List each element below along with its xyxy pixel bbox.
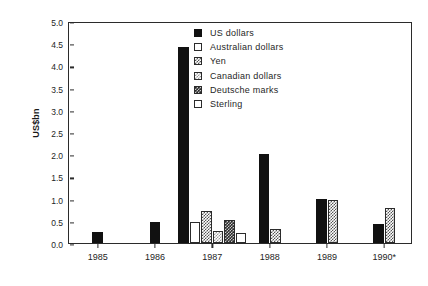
- legend-swatch-icon: [194, 29, 202, 37]
- legend-swatch-icon: [194, 100, 202, 108]
- bar: [201, 211, 212, 243]
- y-axis-tick: 0.0: [51, 240, 69, 250]
- y-axis-tick: 3.5: [51, 85, 69, 95]
- bar-chart: US$bn 0.00.51.01.52.02.53.03.54.04.55.01…: [0, 0, 428, 286]
- legend-item-label: Canadian dollars: [210, 71, 282, 81]
- bar: [178, 47, 189, 243]
- y-axis-tick: 2.5: [51, 129, 69, 139]
- y-axis-tick: 4.0: [51, 62, 69, 72]
- y-axis-tick: 5.0: [51, 18, 69, 28]
- legend-swatch-icon: [194, 57, 202, 65]
- legend-item[interactable]: Sterling: [194, 97, 344, 111]
- bar: [259, 154, 270, 243]
- x-axis-tick: 1988: [260, 243, 280, 262]
- bar: [270, 229, 281, 243]
- bar: [328, 200, 339, 243]
- legend-item-label: US dollars: [210, 28, 254, 38]
- x-axis-tick: 1986: [145, 243, 165, 262]
- x-axis-tick: 1989: [317, 243, 337, 262]
- y-axis-tick: 1.0: [51, 196, 69, 206]
- legend-item-label: Yen: [210, 56, 226, 66]
- bar: [385, 208, 396, 243]
- legend-item-label: Sterling: [210, 99, 243, 109]
- y-axis-tick: 4.5: [51, 40, 69, 50]
- y-axis-tick: 1.5: [51, 173, 69, 183]
- bar: [236, 233, 247, 243]
- legend-item[interactable]: Canadian dollars: [194, 69, 344, 83]
- legend-item-label: Deutsche marks: [210, 85, 279, 95]
- legend-item-label: Australian dollars: [210, 42, 284, 52]
- y-axis-tick: 3.0: [51, 107, 69, 117]
- x-axis-tick: 1985: [88, 243, 108, 262]
- y-axis-tick: 2.0: [51, 151, 69, 161]
- y-axis-tick: 0.5: [51, 218, 69, 228]
- bar: [150, 222, 161, 243]
- legend-swatch-icon: [194, 72, 202, 80]
- bar: [213, 231, 224, 243]
- legend-item[interactable]: Deutsche marks: [194, 83, 344, 97]
- legend-item[interactable]: Yen: [194, 54, 344, 68]
- legend-swatch-icon: [194, 43, 202, 51]
- bar: [190, 222, 201, 243]
- bar: [373, 224, 384, 243]
- x-axis-tick: 1990*: [373, 243, 397, 262]
- bar: [224, 220, 235, 243]
- y-axis-label: US$bn: [31, 83, 41, 163]
- bar: [316, 199, 327, 243]
- legend-item[interactable]: Australian dollars: [194, 40, 344, 54]
- legend-item[interactable]: US dollars: [194, 26, 344, 40]
- x-axis-tick: 1987: [202, 243, 222, 262]
- bar: [92, 232, 103, 243]
- chart-legend: US dollarsAustralian dollarsYenCanadian …: [194, 26, 344, 111]
- legend-swatch-icon: [194, 86, 202, 94]
